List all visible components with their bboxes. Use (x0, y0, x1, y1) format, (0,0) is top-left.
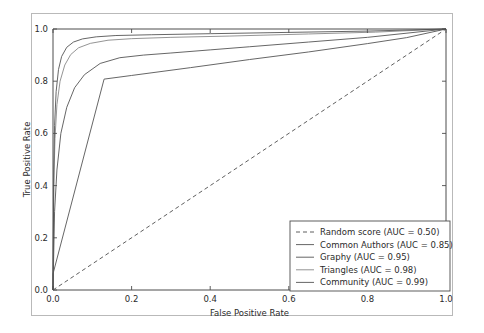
y-tick-label-3: 0.6 (34, 128, 48, 138)
y-tick-label-0: 0.0 (34, 285, 48, 295)
x-axis-label: False Positive Rate (210, 308, 289, 318)
roc-figure: 0.00.20.40.60.81.00.00.20.40.60.81.0 Fal… (0, 0, 484, 333)
y-tick-label-5: 1.0 (34, 24, 48, 34)
y-tick-label-4: 0.8 (34, 76, 48, 86)
x-tick-label-4: 0.8 (361, 294, 375, 304)
x-tick-label-0: 0.0 (46, 294, 60, 304)
legend-label-random-score[interactable]: Random score (AUC = 0.50) (320, 227, 440, 237)
legend-label-graphy[interactable]: Graphy (AUC = 0.95) (320, 252, 410, 262)
x-tick-label-5: 1.0 (439, 294, 453, 304)
legend-label-common-authors[interactable]: Common Authors (AUC = 0.85) (320, 240, 453, 250)
legend-label-community[interactable]: Community (AUC = 0.99) (320, 277, 428, 287)
legend-label-triangles[interactable]: Triangles (AUC = 0.98) (319, 265, 417, 275)
legend[interactable]: Random score (AUC = 0.50)Common Authors … (290, 221, 453, 291)
y-tick-label-1: 0.2 (34, 233, 48, 243)
x-tick-label-1: 0.2 (125, 294, 139, 304)
y-tick-label-2: 0.4 (34, 181, 48, 191)
y-axis-label: True Positive Rate (22, 122, 32, 199)
roc-plot: 0.00.20.40.60.81.00.00.20.40.60.81.0 Fal… (0, 0, 484, 333)
x-tick-label-3: 0.6 (282, 294, 296, 304)
x-tick-label-2: 0.4 (203, 294, 217, 304)
